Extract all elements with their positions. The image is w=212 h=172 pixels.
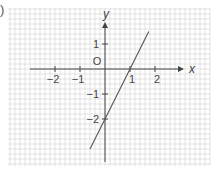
origin-label: O [93,55,102,67]
grid-lines [8,8,210,166]
y-axis-label: y [102,7,110,21]
y-tick-label: 1 [93,38,99,50]
x-tick-label: 1 [129,73,135,85]
x-tick-label: −1 [72,73,85,85]
axis-labels: −2−1121−1−2Oxy [47,7,196,125]
y-tick-label: −2 [86,113,99,125]
x-tick-label: −2 [47,73,60,85]
x-axis-label: x [188,62,196,76]
y-axis-arrow-icon [102,22,108,28]
x-tick-label: 2 [154,73,160,85]
y-tick-label: −1 [86,88,99,100]
panel-label: ) [0,2,4,17]
x-axis-arrow-icon [178,66,184,72]
graph-figure: ) −2−1121−1−2Oxy [0,0,212,172]
coordinate-plane: −2−1121−1−2Oxy [0,0,212,172]
axes [30,22,184,162]
